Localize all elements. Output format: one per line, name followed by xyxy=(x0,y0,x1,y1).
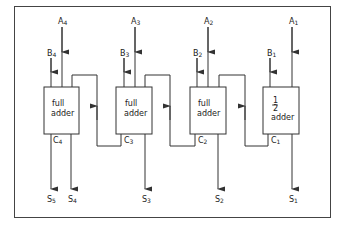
ha1-frac-den: 2 xyxy=(273,104,278,113)
b4-label: B4 xyxy=(47,49,57,58)
c1-label: C1 xyxy=(271,136,281,145)
fa4-label-2: adder xyxy=(51,109,75,118)
s2-label: S2 xyxy=(215,195,224,204)
fa2-label-2: adder xyxy=(197,109,221,118)
s4-label: S4 xyxy=(68,195,77,204)
s3-label: S3 xyxy=(142,195,151,204)
a4-label: A4 xyxy=(58,17,67,26)
fa3-label-1: full xyxy=(125,99,137,108)
a1-label: A1 xyxy=(289,17,298,26)
a2-label: A2 xyxy=(204,17,213,26)
fa2-label-1: full xyxy=(198,99,210,108)
parallel-adder-diagram: full adder full adder full adder 1 2 add… xyxy=(0,0,344,232)
c3-label: C3 xyxy=(124,136,134,145)
c4-label: C4 xyxy=(53,136,63,145)
s5-label: S5 xyxy=(47,195,56,204)
half-adder-1-box xyxy=(263,87,299,134)
fa3-label-2: adder xyxy=(124,109,148,118)
fa4-label-1: full xyxy=(52,99,64,108)
c2-label: C2 xyxy=(198,136,208,145)
ha1-label-2: adder xyxy=(271,113,295,122)
b1-label: B1 xyxy=(267,49,277,58)
a3-label: A3 xyxy=(131,17,140,26)
b2-label: B2 xyxy=(193,49,203,58)
s1-label: S1 xyxy=(289,195,298,204)
b3-label: B3 xyxy=(120,49,130,58)
